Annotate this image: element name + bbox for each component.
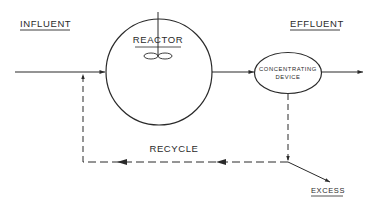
recycle-label: RECYCLE bbox=[149, 143, 198, 154]
influent-label-group: INFLUENT bbox=[20, 18, 71, 30]
concentrating-device-label-line1: CONCENTRATING bbox=[259, 66, 317, 72]
excess-label: EXCESS bbox=[311, 186, 345, 195]
influent-label: INFLUENT bbox=[20, 18, 71, 29]
concentrating-device-shape bbox=[255, 53, 322, 94]
effluent-label-group: EFFLUENT bbox=[290, 18, 344, 30]
effluent-label: EFFLUENT bbox=[290, 18, 344, 29]
recycle-arrowhead-right bbox=[216, 159, 226, 165]
excess-label-group: EXCESS bbox=[311, 186, 345, 196]
concentrating-device: CONCENTRATING DEVICE bbox=[255, 53, 322, 94]
reactor: REACTOR bbox=[106, 12, 212, 125]
process-flow-diagram: INFLUENT EFFLUENT REACTOR CONCENTRATING … bbox=[0, 0, 375, 208]
excess-flow-arrow bbox=[288, 162, 330, 182]
reactor-label: REACTOR bbox=[133, 34, 183, 45]
recycle-arrowhead-left bbox=[117, 159, 127, 165]
concentrating-device-label-line2: DEVICE bbox=[275, 74, 300, 80]
